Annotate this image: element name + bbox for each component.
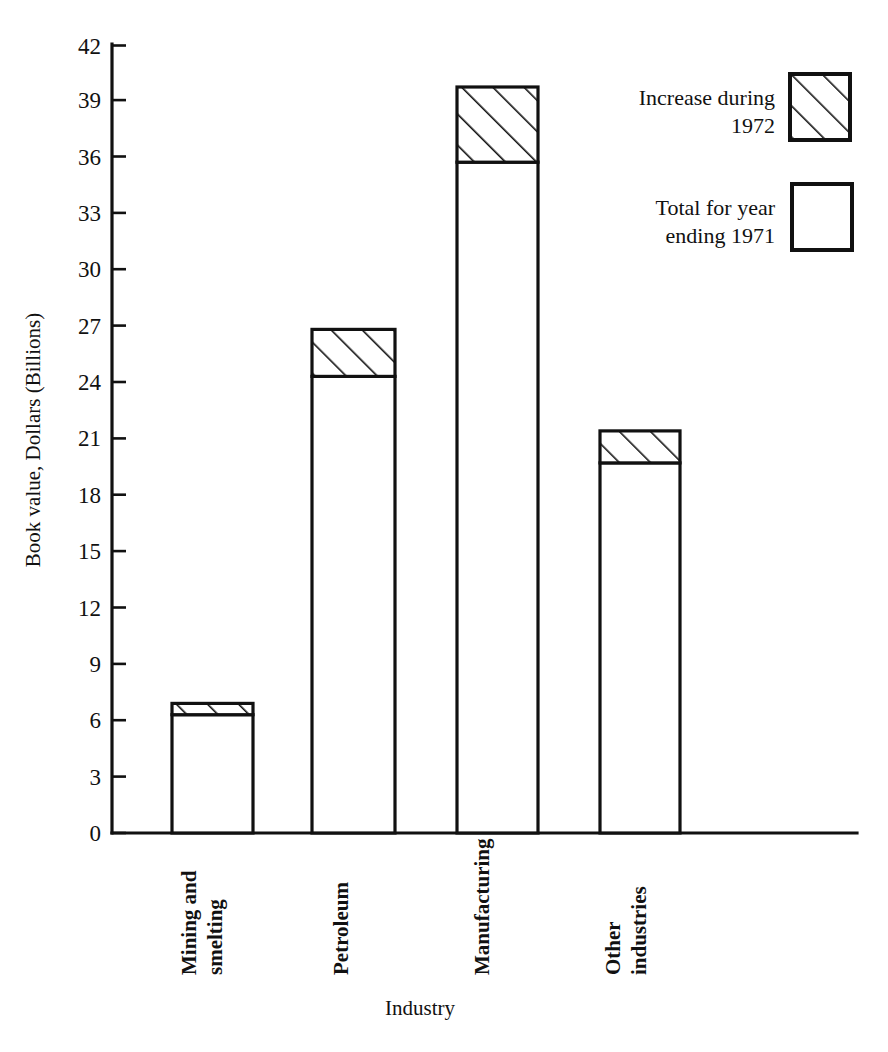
legend-swatch-open-square (792, 184, 852, 250)
chart-background (0, 0, 888, 1052)
y-tick-label-36: 36 (78, 145, 101, 170)
category-label-petroleum-line1: Petroleum (329, 882, 353, 975)
y-tick-label-6: 6 (90, 708, 102, 733)
y-tick-label-3: 3 (90, 765, 102, 790)
legend-swatch-hatched-square-fill (790, 74, 850, 140)
y-tick-label-27: 27 (78, 314, 101, 339)
y-tick-label-15: 15 (78, 539, 101, 564)
bar-chart: 0 3 6 9 12 15 18 21 24 27 30 33 36 39 42… (0, 0, 888, 1052)
bar-increase-manufacturing[interactable] (457, 87, 538, 162)
category-label-manufacturing-line1: Manufacturing (470, 838, 494, 975)
bar-increase-mining-and-smelting[interactable] (172, 703, 253, 714)
chart-container: 0 3 6 9 12 15 18 21 24 27 30 33 36 39 42… (0, 0, 888, 1052)
bar-increase-other-industries[interactable] (600, 431, 680, 463)
category-label-other-industries-line1: Other (601, 921, 625, 975)
bar-base-petroleum[interactable] (312, 376, 395, 833)
y-tick-label-9: 9 (90, 652, 102, 677)
legend-label-total-for-year-ending-1971-line1: Total for year (656, 195, 776, 220)
bar-increase-petroleum[interactable] (312, 329, 395, 376)
bar-base-other-industries[interactable] (600, 463, 680, 833)
y-tick-label-30: 30 (78, 257, 101, 282)
bar-group-petroleum[interactable] (312, 329, 395, 833)
y-tick-label-39: 39 (78, 88, 101, 113)
bar-base-mining-and-smelting[interactable] (172, 715, 253, 833)
bar-group-mining-and-smelting[interactable] (172, 703, 253, 833)
y-tick-label-24: 24 (78, 370, 102, 395)
bar-base-manufacturing[interactable] (457, 162, 538, 833)
x-axis-title: Industry (385, 996, 455, 1020)
y-tick-label-21: 21 (78, 426, 101, 451)
legend-label-increase-during-1972-line2: 1972 (731, 113, 775, 138)
y-tick-label-0: 0 (90, 821, 102, 846)
bar-group-other-industries[interactable] (600, 431, 680, 833)
category-label-mining-and-smelting-line1: Mining and (177, 870, 201, 975)
y-tick-label-42: 42 (78, 34, 101, 59)
category-label-mining-and-smelting-line2: smelting (203, 899, 227, 975)
bar-group-manufacturing[interactable] (457, 87, 538, 833)
y-axis-title: Book value, Dollars (Billions) (21, 313, 45, 567)
y-tick-label-18: 18 (78, 483, 101, 508)
y-tick-label-12: 12 (78, 596, 101, 621)
y-tick-label-33: 33 (78, 201, 101, 226)
legend-label-increase-during-1972-line1: Increase during (639, 85, 775, 110)
legend-label-total-for-year-ending-1971-line2: ending 1971 (666, 223, 775, 248)
category-label-other-industries-line2: industries (627, 886, 651, 975)
